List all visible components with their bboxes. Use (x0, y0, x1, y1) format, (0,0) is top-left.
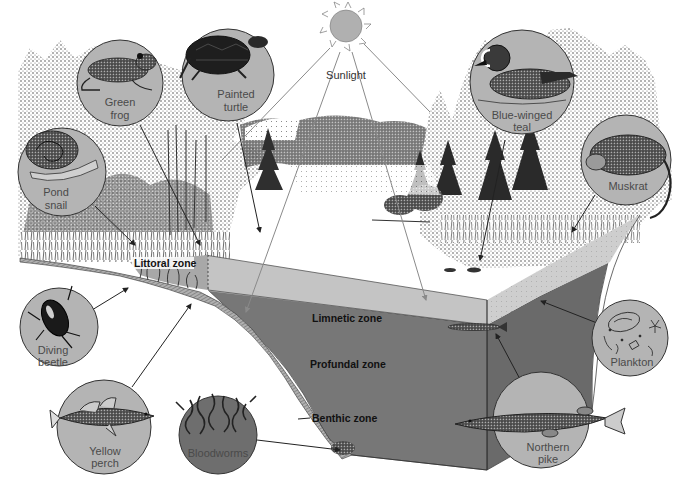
label-green-frog-1: Green (105, 96, 136, 108)
label-bloodworms: Bloodworms (188, 447, 249, 459)
pointer-benthic (298, 418, 310, 419)
organism-yellow-perch: Yellow perch (50, 380, 154, 474)
organism-green-frog: Green frog (77, 40, 163, 126)
label-blue-winged-teal-1: Blue-winged (492, 109, 553, 121)
sun-icon (320, 2, 371, 51)
label-painted-turtle-2: turtle (224, 101, 248, 113)
pointer-diving-beetle (92, 288, 128, 310)
organism-pond-snail: Pond snail (18, 128, 106, 216)
label-plankton: Plankton (611, 356, 654, 368)
label-pond-snail-2: snail (45, 199, 68, 211)
sunlight-label: Sunlight (326, 69, 366, 81)
water-reflection (290, 165, 440, 195)
label-blue-winged-teal-2: teal (513, 121, 531, 133)
organism-plankton: Plankton (592, 300, 668, 376)
limnetic-zone-label: Limnetic zone (312, 312, 382, 324)
teal-on-water (444, 268, 481, 273)
label-diving-beetle-2: beetle (38, 356, 68, 368)
label-yellow-perch-1: Yellow (89, 445, 120, 457)
lake-ecosystem-diagram: Sunlight Green frog (0, 0, 688, 493)
pointer-yellow-perch (132, 304, 191, 387)
label-green-frog-2: frog (111, 109, 130, 121)
label-diving-beetle-1: Diving (38, 344, 69, 356)
label-muskrat: Muskrat (608, 180, 647, 192)
label-northern-pike-1: Northern (527, 441, 570, 453)
pointer-bloodworms (257, 440, 340, 450)
benthic-zone-label: Benthic zone (312, 412, 377, 424)
sun-disc (330, 10, 362, 42)
profundal-zone-label: Profundal zone (310, 358, 386, 370)
label-painted-turtle-1: Painted (217, 88, 254, 100)
organism-diving-beetle: Diving beetle (20, 286, 98, 368)
label-yellow-perch-2: perch (91, 457, 119, 469)
label-northern-pike-2: pike (538, 453, 558, 465)
littoral-zone-label: Littoral zone (134, 257, 197, 269)
benthic-sediment-patch (331, 441, 355, 455)
label-pond-snail-1: Pond (43, 186, 69, 198)
organism-bloodworms: Bloodworms (176, 394, 257, 474)
